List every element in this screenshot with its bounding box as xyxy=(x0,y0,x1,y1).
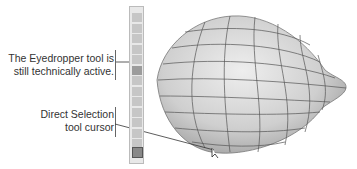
blob-icon[interactable] xyxy=(132,129,142,138)
type-icon[interactable] xyxy=(132,45,142,54)
pen-icon[interactable] xyxy=(132,34,142,43)
direct-selection-icon[interactable] xyxy=(132,24,142,33)
eyedropper-icon[interactable] xyxy=(132,66,142,75)
pencil-icon[interactable] xyxy=(132,118,142,127)
brush-icon[interactable] xyxy=(132,76,142,85)
illustration xyxy=(0,0,357,169)
tools-panel xyxy=(129,6,144,164)
fill-stroke-swatch[interactable] xyxy=(132,147,143,158)
rotate-icon[interactable] xyxy=(132,87,142,96)
selection-icon[interactable] xyxy=(132,13,142,22)
graph-icon[interactable] xyxy=(132,97,142,106)
gradient-icon[interactable] xyxy=(132,55,142,64)
mesh-shape xyxy=(157,16,346,153)
artboard-icon[interactable] xyxy=(132,108,142,117)
